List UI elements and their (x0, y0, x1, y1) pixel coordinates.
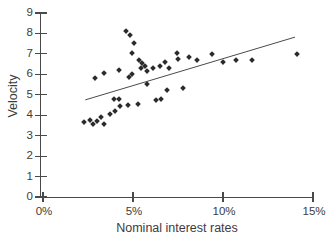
trend-line-layer (0, 0, 334, 242)
scatter-chart: Velocity Nominal interest rates 01234567… (0, 0, 334, 242)
trend-line (85, 37, 295, 100)
